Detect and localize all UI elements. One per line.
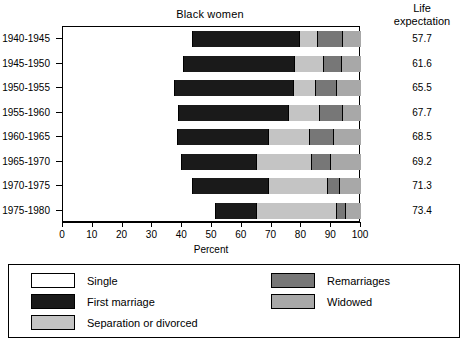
legend-item: Single	[31, 273, 118, 288]
life-expectation-column: 57.761.665.567.768.569.271.373.4	[376, 26, 468, 222]
bar-segment	[257, 203, 337, 219]
bar-segment	[193, 178, 269, 194]
bar-segment	[179, 105, 289, 121]
x-axis-title: Percent	[62, 244, 360, 255]
legend-label: First marriage	[87, 296, 155, 308]
separation-swatch	[31, 315, 75, 330]
legend-label: Remarriages	[327, 275, 390, 287]
stacked-bar	[63, 80, 361, 96]
legend-item: Widowed	[271, 294, 372, 309]
bar-segment	[342, 56, 360, 72]
bar-segment	[320, 105, 343, 121]
life-expectation-header: Life expectation	[376, 2, 468, 28]
legend-label: Separation or divorced	[87, 317, 198, 329]
bar-segment	[63, 129, 178, 145]
bar-row	[63, 154, 359, 170]
bar-segment	[343, 105, 361, 121]
x-axis-tick-label: 20	[116, 229, 127, 240]
life-expectation-value: 71.3	[376, 180, 468, 191]
x-axis-tick-label: 80	[295, 229, 306, 240]
x-axis-tick-label: 70	[265, 229, 276, 240]
bar-segment	[337, 80, 361, 96]
bar-row	[63, 31, 359, 47]
bar-row	[63, 178, 359, 194]
x-axis-tick-label: 0	[59, 229, 65, 240]
bar-segment	[184, 56, 295, 72]
y-axis-labels: 1940-19451945-19501950-19551955-19601960…	[0, 26, 58, 222]
chart-legend: SingleFirst marriageSeparation or divorc…	[8, 264, 460, 338]
x-axis-tick	[92, 222, 93, 227]
bar-segment	[340, 178, 361, 194]
bar-segment	[63, 80, 175, 96]
y-axis-tick	[56, 161, 62, 162]
x-axis-tick-label: 50	[205, 229, 216, 240]
legend-label: Widowed	[327, 296, 372, 308]
stacked-bar	[63, 178, 361, 194]
bar-segment	[63, 56, 184, 72]
x-axis-tick-label: 90	[325, 229, 336, 240]
bar-segment	[310, 129, 334, 145]
life-expectation-value: 65.5	[376, 82, 468, 93]
x-axis-tick	[62, 222, 63, 227]
remarriages-swatch	[271, 273, 315, 288]
y-axis-tick	[56, 87, 62, 88]
bar-segment	[257, 154, 312, 170]
x-axis-tick-label: 10	[86, 229, 97, 240]
bar-segment	[289, 105, 320, 121]
bar-row	[63, 56, 359, 72]
stacked-bar	[63, 56, 361, 72]
life-expectation-value: 61.6	[376, 57, 468, 68]
bar-segment	[269, 129, 311, 145]
x-axis-tick-label: 30	[146, 229, 157, 240]
life-expectation-value: 68.5	[376, 131, 468, 142]
y-axis-tick	[56, 136, 62, 137]
y-axis-tick-label: 1975-1980	[2, 204, 50, 215]
x-axis-tick	[330, 222, 331, 227]
bars-layer	[63, 27, 359, 221]
bar-segment	[269, 178, 329, 194]
bar-row	[63, 203, 359, 219]
life-expectation-value: 69.2	[376, 155, 468, 166]
legend-item: Remarriages	[271, 273, 390, 288]
bar-segment	[300, 31, 318, 47]
stacked-bar	[63, 31, 361, 47]
bar-row	[63, 105, 359, 121]
y-axis-tick	[56, 38, 62, 39]
plot-area	[62, 26, 360, 222]
y-axis-tick-label: 1955-1960	[2, 106, 50, 117]
bar-segment	[175, 80, 294, 96]
life-expectation-value: 57.7	[376, 33, 468, 44]
bar-segment	[193, 31, 300, 47]
bar-segment	[216, 203, 257, 219]
x-axis-tick	[300, 222, 301, 227]
bar-segment	[318, 31, 343, 47]
y-axis-tick	[56, 210, 62, 211]
x-axis-tick	[211, 222, 212, 227]
y-axis-tick	[56, 185, 62, 186]
bar-segment	[63, 31, 193, 47]
bar-segment	[312, 154, 331, 170]
bar-segment	[178, 129, 269, 145]
stacked-bar	[63, 105, 361, 121]
life-expectation-value: 67.7	[376, 106, 468, 117]
y-axis-tick-label: 1960-1965	[2, 131, 50, 142]
x-axis-tick	[181, 222, 182, 227]
bar-segment	[294, 80, 316, 96]
x-axis-tick-label: 100	[352, 229, 369, 240]
bar-segment	[295, 56, 324, 72]
bar-segment	[337, 203, 346, 219]
bar-segment	[331, 154, 361, 170]
bar-segment	[63, 178, 193, 194]
x-axis-tick	[151, 222, 152, 227]
stacked-bar	[63, 129, 361, 145]
bar-row	[63, 129, 359, 145]
legend-label: Single	[87, 275, 118, 287]
chart-root: Black women Life expectation 1940-194519…	[0, 0, 468, 344]
bar-segment	[346, 203, 361, 219]
bar-segment	[334, 129, 361, 145]
bar-segment	[63, 154, 182, 170]
single-swatch	[31, 273, 75, 288]
x-axis-tick-label: 60	[235, 229, 246, 240]
legend-item: First marriage	[31, 294, 155, 309]
x-axis-tick	[360, 222, 361, 227]
